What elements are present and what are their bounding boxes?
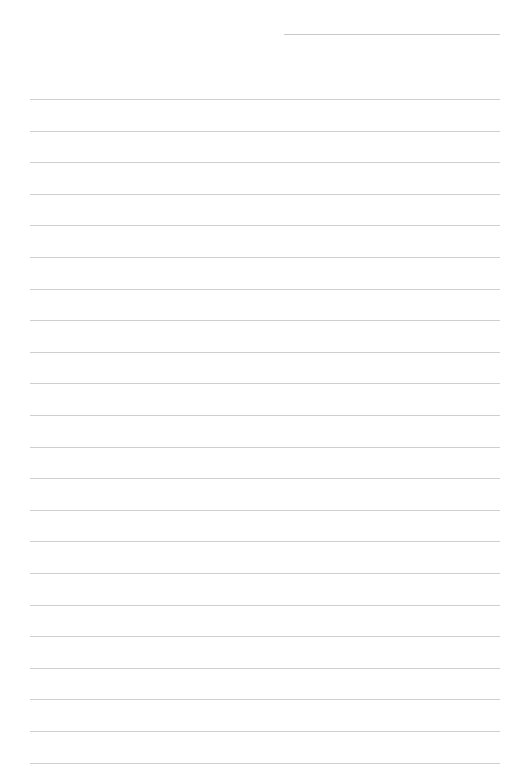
ruled-line — [30, 415, 500, 416]
header-date-line — [284, 34, 500, 35]
ruled-line — [30, 162, 500, 163]
ruled-line — [30, 763, 500, 764]
ruled-line — [30, 383, 500, 384]
ruled-line — [30, 636, 500, 637]
ruled-line — [30, 320, 500, 321]
ruled-line — [30, 668, 500, 669]
ruled-line — [30, 131, 500, 132]
ruled-line — [30, 99, 500, 100]
ruled-line — [30, 605, 500, 606]
ruled-line — [30, 225, 500, 226]
ruled-line — [30, 194, 500, 195]
ruled-line — [30, 510, 500, 511]
ruled-line — [30, 352, 500, 353]
ruled-line — [30, 289, 500, 290]
ruled-line — [30, 257, 500, 258]
ruled-line — [30, 478, 500, 479]
ruled-line — [30, 731, 500, 732]
ruled-line — [30, 447, 500, 448]
ruled-line — [30, 573, 500, 574]
ruled-line — [30, 699, 500, 700]
ruled-line — [30, 541, 500, 542]
